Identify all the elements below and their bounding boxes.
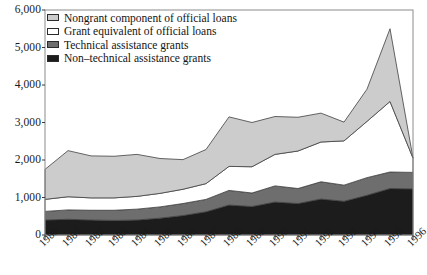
legend-item: Technical assistance grants xyxy=(47,38,297,52)
x-axis-tick-label: 1982 xyxy=(83,225,106,248)
legend-item: Grant equivalent of official loans xyxy=(47,25,297,39)
legend-swatch-icon xyxy=(47,28,59,35)
x-axis-tick-label: 1989 xyxy=(244,225,267,248)
stacked-area-chart: 01,0002,0003,0004,0005,0006,000 19801981… xyxy=(0,0,427,275)
x-axis-tick-label: 1983 xyxy=(106,225,129,248)
x-axis-tick-label: 1985 xyxy=(152,225,175,248)
chart-legend: Nongrant component of official loansGran… xyxy=(47,11,297,65)
x-axis-tick-label: 1996 xyxy=(405,225,427,248)
x-axis-tick-label: 1981 xyxy=(60,225,83,248)
legend-swatch-icon xyxy=(47,55,59,62)
legend-item-label: Nongrant component of official loans xyxy=(64,12,237,24)
x-axis-tick-label: 1987 xyxy=(198,225,221,248)
legend-item: Non–technical assistance grants xyxy=(47,52,297,66)
x-axis-tick-label: 1990 xyxy=(267,225,290,248)
legend-swatch-icon xyxy=(47,41,59,48)
x-axis-tick-label: 1992 xyxy=(313,225,336,248)
x-axis-tick-label: 1991 xyxy=(290,225,313,248)
x-axis-tick-label: 1986 xyxy=(175,225,198,248)
x-axis-tick-label: 1984 xyxy=(129,225,152,248)
x-axis-tick-label: 1980 xyxy=(37,225,60,248)
legend-item-label: Non–technical assistance grants xyxy=(64,52,211,64)
legend-item: Nongrant component of official loans xyxy=(47,11,297,25)
legend-item-label: Technical assistance grants xyxy=(64,39,188,51)
x-axis-tick-label: 1995 xyxy=(382,225,405,248)
x-axis-tick-label: 1988 xyxy=(221,225,244,248)
x-axis-tick-label: 1993 xyxy=(336,225,359,248)
legend-swatch-icon xyxy=(47,14,59,21)
legend-item-label: Grant equivalent of official loans xyxy=(64,25,216,37)
x-axis-tick-label: 1994 xyxy=(359,225,382,248)
